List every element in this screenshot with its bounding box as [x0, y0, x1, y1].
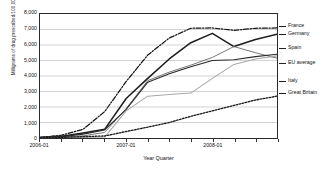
legend-item-label: Great Britain [288, 90, 328, 96]
y-tick-label: 4,000 [11, 73, 37, 78]
legend-leader-line [279, 48, 286, 49]
y-tick-label: 5,000 [11, 58, 37, 63]
series-lines [40, 28, 277, 138]
x-tick [235, 139, 236, 142]
x-tick [191, 139, 192, 142]
x-tick [104, 139, 105, 142]
legend-leader-line [279, 93, 286, 94]
legend-item-label: EU average [288, 60, 328, 66]
y-tick-label: 0 [11, 136, 37, 141]
line-chart: Milligrams of drug prescribed/100,000 po… [0, 0, 328, 174]
legend-leader-line [279, 81, 286, 82]
legend-item-label: Germany [288, 31, 328, 37]
y-tick-label: 7,000 [11, 26, 37, 31]
y-tick-label: 8,000 [11, 10, 37, 15]
legend-item-label: Spain [288, 45, 328, 51]
plot-area [39, 13, 278, 139]
legend: FranceGermanySpainEU averageItalyGreat B… [279, 0, 328, 174]
series-line-spain [40, 47, 277, 138]
x-tick [82, 139, 83, 142]
x-axis-title: Year Quarter [39, 156, 278, 161]
x-tick [169, 139, 170, 142]
y-tick-label: 2,000 [11, 105, 37, 110]
y-tick-label: 1,000 [11, 121, 37, 126]
legend-item-label: Italy [288, 78, 328, 84]
legend-leader-line [279, 26, 286, 27]
x-tick [256, 139, 257, 142]
plot-svg [40, 14, 277, 138]
legend-item-label: France [288, 23, 328, 29]
x-axis-ticks [39, 139, 278, 144]
x-tick [61, 139, 62, 142]
y-tick-label: 3,000 [11, 89, 37, 94]
x-tick-label: 2008-01 [203, 143, 222, 148]
x-tick-label: 2006-01 [29, 143, 48, 148]
legend-leader-line [279, 63, 286, 64]
y-tick-label: 6,000 [11, 42, 37, 47]
x-tick [148, 139, 149, 142]
x-tick-label: 2007-01 [116, 143, 135, 148]
legend-leader-line [279, 34, 286, 35]
